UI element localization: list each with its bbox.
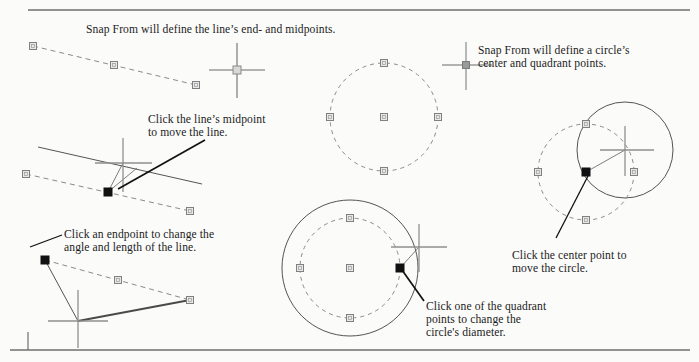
grip-move-midpoint-selected[interactable] [104, 188, 112, 196]
grip-movecircle-center-selected[interactable] [582, 168, 590, 176]
caption-click-center: Click the center point to move the circl… [512, 249, 627, 275]
leader-endpoint [30, 235, 62, 247]
crosshair-center-drag [600, 126, 654, 176]
grip-resize-north[interactable] [347, 215, 354, 222]
grip-circle-east[interactable] [435, 114, 442, 121]
figure-circle-unselected [327, 60, 442, 175]
grip-move-start[interactable] [23, 171, 30, 178]
grip-resize-west[interactable] [297, 265, 304, 272]
grip-line-start[interactable] [30, 43, 37, 50]
figure-line-unselected [30, 43, 200, 89]
grip-circle-west[interactable] [327, 114, 334, 121]
grip-stretch-midpoint[interactable] [115, 277, 122, 284]
circle-move-drag-vector [586, 150, 625, 172]
grip-circle-north[interactable] [381, 60, 388, 67]
grip-stretch-start-selected[interactable] [41, 256, 49, 264]
figure-line-move-midpoint [23, 138, 203, 215]
leader-center [556, 176, 588, 238]
crosshair-midpoint-drag [95, 138, 152, 192]
line-stretch-rubber-band [78, 300, 190, 321]
snap-marker-dot [463, 62, 470, 69]
line-move-ghost [38, 147, 202, 184]
caption-click-midpoint: Click the line’s midpoint to move the li… [148, 113, 265, 139]
grip-movecircle-north[interactable] [583, 121, 590, 128]
grip-move-end[interactable] [187, 208, 194, 215]
figure-circle-resize-quadrant [282, 200, 447, 336]
grip-movecircle-south[interactable] [583, 217, 590, 224]
line-stretch-ghost-leg [45, 260, 78, 321]
grip-line-end[interactable] [193, 82, 200, 89]
leader-quadrant [402, 270, 424, 301]
grip-stretch-end[interactable] [187, 297, 194, 304]
figure-page: Snap From will define the line’s end- an… [0, 0, 699, 362]
grip-resize-center[interactable] [347, 265, 354, 272]
crosshair-line-snap [209, 43, 265, 98]
figure-circle-move-center [535, 102, 674, 224]
grip-line-midpoint[interactable] [111, 62, 118, 69]
grip-circle-center[interactable] [381, 114, 388, 121]
crosshair-endpoint-drag [48, 290, 108, 348]
figure-line-stretch-endpoint [41, 256, 194, 348]
grip-circle-south[interactable] [381, 168, 388, 175]
caption-heading: Snap From will define the line’s end- an… [86, 23, 336, 36]
grip-movecircle-west[interactable] [535, 169, 542, 176]
caption-click-quadrant: Click one of the quadrant points to chan… [426, 300, 546, 340]
caption-circle-definition: Snap From will define a circle’s center … [478, 44, 630, 70]
snap-marker-square [233, 66, 241, 74]
grip-movecircle-east[interactable] [631, 169, 638, 176]
caption-click-endpoint: Click an endpoint to change the angle an… [64, 228, 214, 254]
grip-resize-south[interactable] [347, 315, 354, 322]
